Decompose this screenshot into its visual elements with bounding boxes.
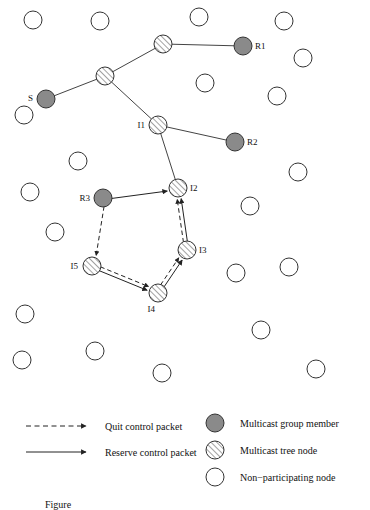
multicast-group-member-node bbox=[234, 37, 252, 55]
non-participating-node bbox=[227, 264, 245, 282]
tree-link bbox=[161, 133, 176, 180]
non-participating-node bbox=[294, 49, 312, 67]
multicast-tree-node bbox=[149, 284, 167, 302]
non-participating-node bbox=[46, 223, 64, 241]
tree-link bbox=[54, 79, 97, 96]
multicast-tree-node bbox=[83, 257, 101, 275]
non-participating-node bbox=[69, 152, 87, 170]
tree-link bbox=[166, 127, 226, 140]
multicast-group-member-node bbox=[226, 133, 244, 151]
network-diagram: SR1R2R3I1I2I3I4I5 Quit control packetRes… bbox=[0, 0, 370, 510]
non-participating-node bbox=[241, 197, 259, 215]
non-participating-node bbox=[153, 364, 171, 382]
node-label: R3 bbox=[79, 193, 90, 203]
non-participating-node bbox=[280, 258, 298, 276]
quit-control-packet-arrow bbox=[160, 258, 178, 285]
non-participating-node bbox=[307, 360, 325, 378]
node-label: R1 bbox=[255, 41, 266, 51]
tree-link bbox=[111, 82, 152, 119]
quit-control-packet-arrow bbox=[100, 267, 148, 287]
non-participating-node bbox=[21, 183, 39, 201]
figure-container: SR1R2R3I1I2I3I4I5 Quit control packetRes… bbox=[0, 0, 370, 510]
non-participating-node bbox=[252, 321, 270, 339]
legend-layer: Quit control packetReserve control packe… bbox=[26, 414, 340, 510]
legend-plain-label: Non−participating node bbox=[240, 472, 336, 483]
reserve-arrows-layer bbox=[99, 191, 188, 290]
legend-member-symbol bbox=[206, 414, 224, 432]
quit-arrows-layer bbox=[96, 199, 183, 286]
legend-tree-label: Multicast tree node bbox=[240, 445, 318, 456]
multicast-tree-node bbox=[96, 67, 114, 85]
non-participating-node bbox=[86, 342, 104, 360]
node-label: I2 bbox=[190, 183, 198, 193]
tree-nodes-layer bbox=[83, 35, 196, 302]
node-label: I1 bbox=[138, 120, 146, 130]
multicast-tree-node bbox=[149, 116, 167, 134]
tree-link bbox=[171, 44, 234, 46]
legend-quit-label: Quit control packet bbox=[105, 421, 182, 432]
reserve-control-packet-arrow bbox=[164, 260, 182, 287]
figure-caption: Figure bbox=[45, 499, 72, 510]
non-participating-node bbox=[196, 74, 214, 92]
non-participating-node bbox=[91, 12, 109, 30]
non-participating-node bbox=[190, 8, 208, 26]
quit-control-packet-arrow bbox=[96, 206, 104, 255]
node-label: R2 bbox=[247, 137, 258, 147]
legend-plain-symbol bbox=[206, 468, 224, 486]
non-participating-node bbox=[15, 106, 33, 124]
non-participating-node bbox=[13, 351, 31, 369]
legend-reserve-label: Reserve control packet bbox=[105, 447, 197, 458]
plain-nodes-layer bbox=[13, 8, 325, 382]
node-label: I4 bbox=[148, 304, 156, 314]
multicast-tree-node bbox=[154, 35, 172, 53]
non-participating-node bbox=[268, 87, 286, 105]
tree-link bbox=[112, 48, 155, 72]
reserve-control-packet-arrow bbox=[181, 199, 187, 242]
non-participating-node bbox=[289, 163, 307, 181]
node-label: I5 bbox=[71, 261, 79, 271]
reserve-control-packet-arrow bbox=[111, 191, 167, 198]
node-label: S bbox=[28, 93, 33, 103]
reserve-control-packet-arrow bbox=[99, 271, 147, 291]
non-participating-node bbox=[16, 305, 34, 323]
legend-member-label: Multicast group member bbox=[240, 418, 340, 429]
multicast-tree-node bbox=[178, 241, 196, 259]
non-participating-node bbox=[275, 12, 293, 30]
multicast-group-member-node bbox=[94, 189, 112, 207]
node-label: I3 bbox=[199, 245, 207, 255]
multicast-group-member-node bbox=[37, 90, 55, 108]
legend-tree-symbol bbox=[206, 441, 224, 459]
non-participating-node bbox=[24, 11, 42, 29]
multicast-tree-node bbox=[169, 179, 187, 197]
